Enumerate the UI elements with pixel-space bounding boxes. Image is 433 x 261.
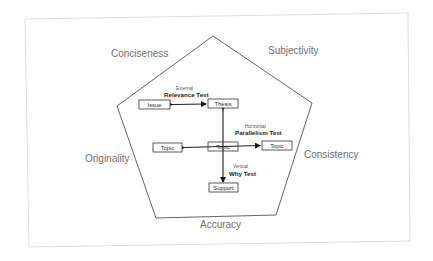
support-label: Support [213,185,234,191]
quality-accuracy: Accuracy [200,219,241,230]
thesis-box: Thesis [208,99,238,108]
diagram-canvas: Conciseness Subjectivity Originality Con… [0,0,433,261]
topic-right-label: Topic [270,143,284,149]
quality-consistency: Consistency [304,149,358,160]
topic-left-box: Topic [153,143,182,152]
issue-label: Issue [148,102,162,108]
quality-subjectivity: Subjectivity [268,45,319,56]
outer-frame [25,13,410,247]
quality-conciseness: Conciseness [111,48,168,59]
support-box: Support [209,183,238,192]
issue-box: Issue [139,100,170,109]
vertical-qualifier: Vertical [233,164,248,169]
relevance-arrow [172,104,206,105]
topic-left-label: Topic [161,145,175,151]
topic-right-box: Topic [262,141,292,150]
quality-originality: Originality [85,153,129,164]
thesis-label: Thesis [214,101,231,107]
relevance-test-label: Relevance Test [164,91,209,98]
why-test-label: Why Test [229,170,256,177]
parallelism-test-label: Parallelism Test [235,129,282,136]
topic-center-label: Topic [216,144,230,150]
